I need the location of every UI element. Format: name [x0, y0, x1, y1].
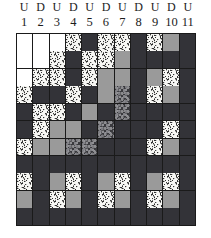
matrix-cell-r4-c9	[147, 86, 162, 103]
matrix-cell-r5-c7	[115, 104, 130, 121]
matrix-cell-r8-c6	[98, 156, 113, 173]
matrix-cell-r9-c3	[50, 173, 65, 190]
matrix-cell-r4-c11	[180, 86, 195, 103]
matrix-cell-r4-c8	[131, 86, 146, 103]
matrix-cell-r1-c10	[163, 34, 178, 51]
matrix-cell-r3-c8	[131, 69, 146, 86]
matrix-cell-r2-c2	[33, 51, 48, 68]
ud-label-4: D	[65, 1, 81, 13]
matrix-cell-r5-c3	[50, 104, 65, 121]
matrix-cell-r2-c10	[163, 51, 178, 68]
matrix-cell-r10-c9	[147, 191, 162, 208]
matrix-cell-r7-c5	[82, 139, 97, 156]
matrix-cell-r6-c11	[180, 121, 195, 138]
matrix-cell-r5-c5	[82, 104, 97, 121]
matrix-grid-border	[16, 33, 196, 226]
matrix-cell-r5-c9	[147, 104, 162, 121]
matrix-cell-r8-c1	[17, 156, 32, 173]
matrix-cell-r2-c5	[82, 51, 97, 68]
matrix-cell-r4-c3	[50, 86, 65, 103]
column-number-1: 1	[16, 16, 32, 29]
matrix-cell-r7-c8	[131, 139, 146, 156]
matrix-cell-r9-c5	[82, 173, 97, 190]
matrix-cell-r9-c7	[115, 173, 130, 190]
matrix-cell-r8-c2	[33, 156, 48, 173]
ud-label-1: U	[16, 1, 32, 13]
matrix-cell-r7-c4	[66, 139, 81, 156]
matrix-cell-r7-c11	[180, 139, 195, 156]
matrix-cell-r4-c1	[17, 86, 32, 103]
matrix-cell-r1-c11	[180, 34, 195, 51]
matrix-cell-r5-c10	[163, 104, 178, 121]
matrix-cell-r10-c3	[50, 191, 65, 208]
matrix-cell-r11-c4	[66, 208, 81, 225]
matrix-cell-r4-c5	[82, 86, 97, 103]
matrix-cell-r9-c2	[33, 173, 48, 190]
matrix-cell-r3-c2	[33, 69, 48, 86]
matrix-cell-r3-c1	[17, 69, 32, 86]
matrix-cell-r2-c1	[17, 51, 32, 68]
matrix-cell-r7-c9	[147, 139, 162, 156]
column-number-10: 10	[163, 16, 179, 29]
matrix-cell-r3-c3	[50, 69, 65, 86]
matrix-cell-r4-c10	[163, 86, 178, 103]
matrix-cell-r2-c6	[98, 51, 113, 68]
matrix-cell-r8-c9	[147, 156, 162, 173]
matrix-cell-r10-c6	[98, 191, 113, 208]
matrix-cell-r11-c5	[82, 208, 97, 225]
figure-root: UDUDUDUDUDU 1234567891011	[0, 0, 211, 238]
matrix-cell-r11-c8	[131, 208, 146, 225]
matrix-cell-r5-c6	[98, 104, 113, 121]
matrix-cell-r11-c6	[98, 208, 113, 225]
matrix-cell-r6-c5	[82, 121, 97, 138]
matrix-cell-r7-c10	[163, 139, 178, 156]
matrix-cell-r9-c8	[131, 173, 146, 190]
matrix-cell-r2-c4	[66, 51, 81, 68]
matrix-cell-r11-c10	[163, 208, 178, 225]
matrix-cell-r1-c4	[66, 34, 81, 51]
matrix-cell-r9-c6	[98, 173, 113, 190]
ud-label-8: D	[131, 1, 147, 13]
matrix-cell-r10-c11	[180, 191, 195, 208]
matrix-cell-r5-c11	[180, 104, 195, 121]
matrix-cell-r8-c3	[50, 156, 65, 173]
matrix-cell-r2-c3	[50, 51, 65, 68]
matrix-cell-r7-c2	[33, 139, 48, 156]
matrix-cell-r7-c1	[17, 139, 32, 156]
matrix-cell-r6-c6	[98, 121, 113, 138]
matrix-cell-r9-c9	[147, 173, 162, 190]
matrix-cell-r8-c7	[115, 156, 130, 173]
matrix-cell-r6-c8	[131, 121, 146, 138]
matrix-cell-r8-c11	[180, 156, 195, 173]
matrix-cell-r8-c5	[82, 156, 97, 173]
matrix-cell-r11-c1	[17, 208, 32, 225]
matrix-cell-r11-c3	[50, 208, 65, 225]
matrix-cell-r5-c8	[131, 104, 146, 121]
matrix-cell-r3-c4	[66, 69, 81, 86]
matrix-cell-r3-c5	[82, 69, 97, 86]
column-number-11: 11	[180, 16, 196, 29]
matrix-cell-r5-c4	[66, 104, 81, 121]
ud-label-10: D	[163, 1, 179, 13]
matrix-cell-r3-c10	[163, 69, 178, 86]
matrix-cell-r10-c10	[163, 191, 178, 208]
matrix-cell-r11-c11	[180, 208, 195, 225]
matrix-cell-r6-c3	[50, 121, 65, 138]
matrix-cell-r3-c11	[180, 69, 195, 86]
column-header: UDUDUDUDUDU 1234567891011	[16, 1, 196, 32]
column-number-9: 9	[147, 16, 163, 29]
matrix-cell-r9-c10	[163, 173, 178, 190]
matrix-cell-r2-c8	[131, 51, 146, 68]
matrix-cell-r3-c7	[115, 69, 130, 86]
ud-label-11: U	[180, 1, 196, 13]
matrix-cell-r11-c9	[147, 208, 162, 225]
column-number-3: 3	[49, 16, 65, 29]
matrix-cell-r9-c1	[17, 173, 32, 190]
matrix-cell-r7-c3	[50, 139, 65, 156]
ud-label-5: U	[81, 1, 97, 13]
matrix-cell-r6-c7	[115, 121, 130, 138]
matrix-cell-r9-c11	[180, 173, 195, 190]
matrix-cell-r8-c8	[131, 156, 146, 173]
matrix-cell-r10-c7	[115, 191, 130, 208]
matrix-cell-r6-c9	[147, 121, 162, 138]
